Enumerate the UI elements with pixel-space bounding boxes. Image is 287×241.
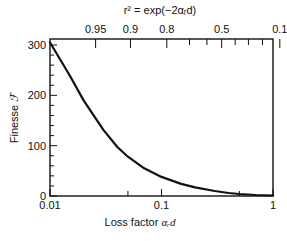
y-tick-label: 200 [28,89,46,101]
y-axis-label-symbol: ℱ [8,91,20,102]
finesse-line [50,43,273,196]
y-axis: 0100200300 [28,39,57,202]
x-axis-top: 0.950.90.80.50.1 [85,23,287,48]
plot-frame [50,39,273,196]
finesse-chart: 0100200300 0.010.11 0.950.90.80.50.1 r² … [0,0,287,241]
x-axis-label-symbol: αᵣd [161,216,175,228]
y-tick-label: 100 [28,140,46,152]
top-axis-label: r² = exp(−2αᵣd) [124,4,197,16]
top-tick-label: 0.1 [272,23,287,35]
top-tick-label: 0.95 [85,23,106,35]
x-tick-label: 0.01 [39,199,60,211]
x-axis-label: Loss factor αᵣd [105,216,176,228]
x-axis-label-text: Loss factor [105,216,162,228]
finesse-curve [50,43,273,196]
plot-border [50,39,273,196]
x-tick-label: 1 [270,199,276,211]
y-axis-label-text: Finesse [8,102,20,144]
y-tick-label: 300 [28,39,46,51]
x-tick-label: 0.1 [154,199,169,211]
y-axis-label: Finesse ℱ [8,91,20,144]
top-tick-label: 0.9 [123,23,138,35]
top-tick-label: 0.5 [214,23,229,35]
x-axis-bottom: 0.010.11 [39,189,276,211]
top-tick-label: 0.8 [159,23,174,35]
